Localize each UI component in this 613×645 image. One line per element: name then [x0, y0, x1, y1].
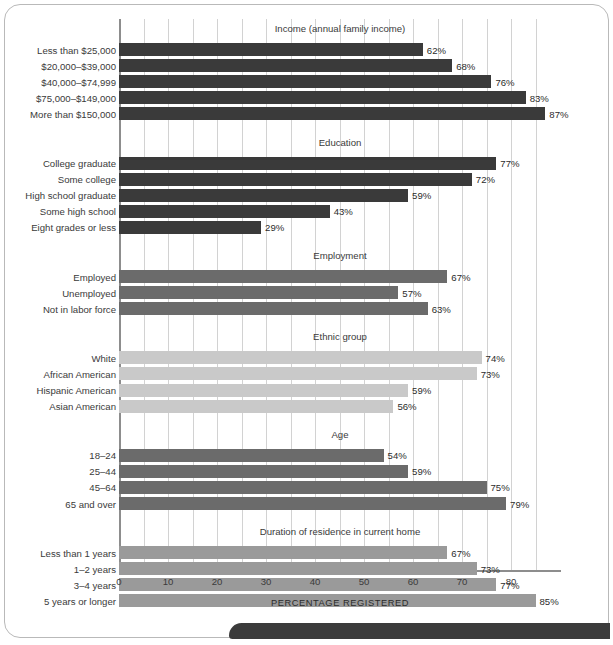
bar-value-label: 75%: [487, 482, 510, 493]
bar-value-label: 29%: [261, 222, 284, 233]
bar-row: $20,000–$39,00068%: [5, 59, 610, 72]
bar-row: African American73%: [5, 367, 610, 380]
category-label: 18–24: [89, 450, 116, 461]
bar: [119, 449, 384, 462]
bar: [119, 59, 452, 72]
bar: [119, 157, 496, 170]
footer-accent-bar: [229, 623, 610, 639]
bar-chart: Less than $25,00062%$20,000–$39,00068%$4…: [5, 5, 610, 639]
x-tick-label: 50: [349, 576, 379, 587]
bar-value-label: 59%: [408, 190, 431, 201]
bar-value-label: 59%: [408, 385, 431, 396]
bar-value-label: 83%: [526, 92, 549, 103]
category-label: 65 and over: [65, 498, 116, 509]
bar-row: Less than 1 years67%: [5, 546, 610, 559]
category-label: $75,000–$149,000: [36, 92, 116, 103]
category-label: College graduate: [43, 158, 116, 169]
bar-row: 18–2454%: [5, 449, 610, 462]
bar-row: 25–4459%: [5, 465, 610, 478]
category-label: 1–2 years: [74, 563, 116, 574]
bar-row: Unemployed57%: [5, 286, 610, 299]
bar-value-label: 74%: [482, 352, 505, 363]
category-label: Hispanic American: [37, 385, 116, 396]
category-label: Unemployed: [62, 287, 116, 298]
bar-value-label: 54%: [384, 450, 407, 461]
bar-row: Asian American56%: [5, 400, 610, 413]
bar-row: Less than $25,00062%: [5, 43, 610, 56]
x-tick-label: 80: [496, 576, 526, 587]
bar-row: 65 and over79%: [5, 497, 610, 510]
category-label: $20,000–$39,000: [41, 60, 116, 71]
bar: [119, 400, 393, 413]
category-label: High school graduate: [25, 190, 116, 201]
bar-value-label: 73%: [477, 563, 500, 574]
section-title: Ethnic group: [119, 331, 561, 342]
category-label: African American: [43, 368, 116, 379]
x-tick-label: 60: [398, 576, 428, 587]
x-axis-title: PERCENTAGE REGISTERED: [119, 598, 561, 608]
bar-value-label: 63%: [428, 303, 451, 314]
bar-value-label: 76%: [491, 76, 514, 87]
bar-row: $75,000–$149,00083%: [5, 91, 610, 104]
bar-row: High school graduate59%: [5, 189, 610, 202]
x-tick-label: 10: [153, 576, 183, 587]
bar: [119, 367, 477, 380]
category-label: Less than 1 years: [40, 547, 116, 558]
x-tick-label: 20: [202, 576, 232, 587]
bar: [119, 302, 428, 315]
bar: [119, 270, 447, 283]
category-label: Employed: [73, 271, 116, 282]
category-label: White: [91, 352, 116, 363]
bar: [119, 107, 545, 120]
bar: [119, 546, 447, 559]
bar: [119, 75, 491, 88]
category-label: Some college: [58, 174, 116, 185]
bar-value-label: 67%: [447, 271, 470, 282]
x-tick-label: 30: [251, 576, 281, 587]
bar: [119, 562, 477, 575]
category-label: Asian American: [49, 401, 116, 412]
bar: [119, 43, 423, 56]
category-label: Eight grades or less: [31, 222, 116, 233]
bar-row: More than $150,00087%: [5, 107, 610, 120]
bar-row: Some high school43%: [5, 205, 610, 218]
bar: [119, 221, 261, 234]
category-label: Some high school: [40, 206, 116, 217]
bar-row: College graduate77%: [5, 157, 610, 170]
bar-row: Not in labor force63%: [5, 302, 610, 315]
bar: [119, 91, 526, 104]
x-tick-label: 70: [447, 576, 477, 587]
bar-row: Hispanic American59%: [5, 384, 610, 397]
bar-value-label: 68%: [452, 60, 475, 71]
category-label: $40,000–$74,999: [41, 76, 116, 87]
bar-value-label: 77%: [496, 158, 519, 169]
bar: [119, 205, 330, 218]
bar: [119, 481, 487, 494]
bar: [119, 286, 398, 299]
category-label: 45–64: [89, 482, 116, 493]
bar: [119, 384, 408, 397]
bar-row: 1–2 years73%: [5, 562, 610, 575]
bar-row: 45–6475%: [5, 481, 610, 494]
bar: [119, 189, 408, 202]
bar-value-label: 43%: [330, 206, 353, 217]
category-label: 5 years or longer: [44, 595, 116, 606]
bar-value-label: 73%: [477, 368, 500, 379]
bar-row: White74%: [5, 351, 610, 364]
bar: [119, 173, 472, 186]
bar: [119, 497, 506, 510]
section-title: Education: [119, 137, 561, 148]
category-label: 25–44: [89, 466, 116, 477]
bar-value-label: 56%: [393, 401, 416, 412]
section-title: Age: [119, 429, 561, 440]
section-title: Income (annual family income): [119, 23, 561, 34]
bar-row: Employed67%: [5, 270, 610, 283]
bar-value-label: 67%: [447, 547, 470, 558]
category-label: Not in labor force: [43, 303, 116, 314]
bar-value-label: 79%: [506, 498, 529, 509]
bar-value-label: 57%: [398, 287, 421, 298]
bar-value-label: 59%: [408, 466, 431, 477]
x-tick-label: 0: [104, 576, 134, 587]
bar-row: $40,000–$74,99976%: [5, 75, 610, 88]
bar: [119, 465, 408, 478]
